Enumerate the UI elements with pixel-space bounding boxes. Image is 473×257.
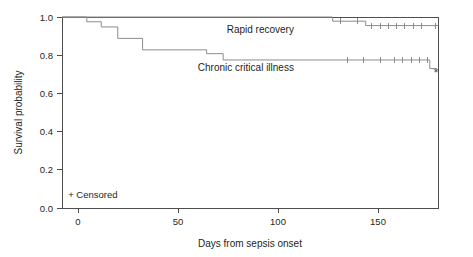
endpoint-marker-group: *: [433, 65, 438, 80]
chart-svg: 0.0 0.2 0.4 0.6 0.8 1.0 Survival probabi…: [0, 0, 473, 257]
series-label-rapid-recovery: Rapid recovery: [227, 24, 294, 35]
series-label-chronic-critical-illness: Chronic critical illness: [198, 62, 294, 73]
y-axis-ticks: [57, 17, 62, 208]
x-axis-title: Days from sepsis onset: [198, 238, 302, 249]
y-axis-title: Survival probability: [13, 71, 24, 155]
y-tick-label-2: 0.4: [40, 126, 53, 137]
endpoint-asterisk-marker: *: [433, 65, 438, 80]
y-axis-tick-labels: 0.0 0.2 0.4 0.6 0.8 1.0: [40, 12, 53, 214]
y-tick-label-1: 0.2: [40, 164, 53, 175]
y-tick-label-5: 1.0: [40, 12, 53, 23]
censored-note: + Censored: [68, 189, 117, 200]
x-tick-label-3: 150: [370, 216, 386, 227]
x-axis-tick-labels: 0 50 100 150: [75, 216, 386, 227]
x-tick-label-2: 100: [270, 216, 286, 227]
x-tick-label-1: 50: [173, 216, 184, 227]
y-tick-label-0: 0.0: [40, 203, 53, 214]
x-tick-label-0: 0: [75, 216, 80, 227]
x-axis-ticks: [78, 208, 378, 213]
y-tick-label-4: 0.8: [40, 50, 53, 61]
survival-chart-figure: 0.0 0.2 0.4 0.6 0.8 1.0 Survival probabi…: [0, 0, 473, 257]
plot-area-frame: [62, 17, 438, 208]
censor-marks-rapid-recovery: [341, 18, 436, 28]
y-tick-label-3: 0.6: [40, 88, 53, 99]
